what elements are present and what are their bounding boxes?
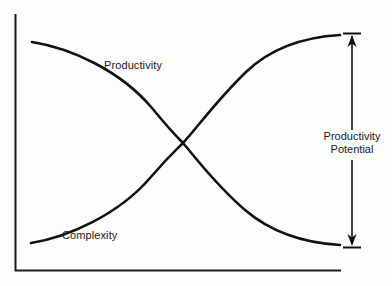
- complexity-curve: [31, 35, 340, 243]
- complexity-curve-label: Complexity: [62, 229, 117, 241]
- productivity-curve-label: Productivity: [104, 59, 162, 71]
- productivity-potential-label-line2: Potential: [311, 143, 392, 156]
- productivity-curve: [32, 42, 340, 245]
- series-complexity: [31, 35, 340, 243]
- productivity-complexity-chart: Productivity Complexity Productivity Pot…: [0, 0, 392, 286]
- productivity-potential-label: Productivity Potential: [311, 130, 392, 156]
- series-productivity: [32, 42, 340, 245]
- productivity-potential-label-line1: Productivity: [311, 130, 392, 143]
